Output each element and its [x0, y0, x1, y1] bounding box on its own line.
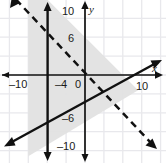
y-tick-label: 6: [68, 32, 74, 44]
x-tick-label: 10: [136, 80, 148, 92]
x-axis-label: x: [151, 62, 157, 74]
x-tick-label: –10: [9, 78, 27, 90]
y-tick-label: –10: [57, 140, 75, 152]
y-tick-label: 10: [62, 5, 74, 17]
x-tick-label: 0: [75, 78, 81, 90]
graph-canvas: –10 –4 0 10 10 6 –6 –10 x y: [0, 0, 166, 163]
coordinate-graph: –10 –4 0 10 10 6 –6 –10 x y: [0, 0, 166, 163]
x-tick-label: –4: [55, 78, 67, 90]
y-axis-label: y: [88, 3, 94, 15]
y-tick-label: –6: [62, 112, 74, 124]
